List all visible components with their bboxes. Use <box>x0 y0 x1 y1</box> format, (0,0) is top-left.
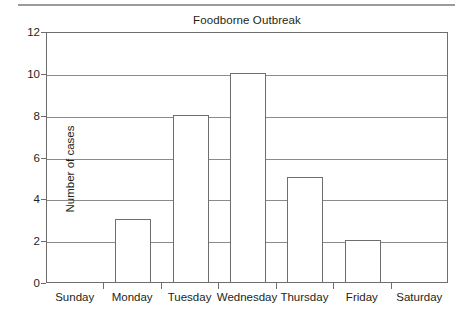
x-axis-tick-mark <box>333 283 334 289</box>
x-axis-tick-mark <box>161 283 162 289</box>
x-axis-tick-label: Saturday <box>396 291 442 303</box>
y-axis-tick-label: 6 <box>14 152 40 164</box>
plot-area: Number of cases <box>46 32 448 283</box>
y-axis-tick-label: 12 <box>14 26 40 38</box>
x-axis-tick-mark <box>103 283 104 289</box>
x-axis-tick-mark <box>218 283 219 289</box>
top-horizontal-rule <box>18 4 455 6</box>
y-axis-label: Number of cases <box>64 99 76 239</box>
y-axis-tick-label: 0 <box>14 277 40 289</box>
bar <box>173 115 209 282</box>
chart-title: Foodborne Outbreak <box>46 14 448 26</box>
bar <box>115 219 151 282</box>
x-axis-tick-label: Wednesday <box>217 291 278 303</box>
y-axis-tick-label: 10 <box>14 68 40 80</box>
x-axis-tick-label: Friday <box>346 291 378 303</box>
bar <box>230 73 266 282</box>
y-axis-tick-label: 4 <box>14 193 40 205</box>
x-axis-tick-labels: SundayMondayTuesdayWednesdayThursdayFrid… <box>46 291 448 309</box>
y-axis-tick-label: 2 <box>14 235 40 247</box>
bar <box>345 240 381 282</box>
x-axis-tick-label: Tuesday <box>168 291 212 303</box>
y-axis-tick-label: 8 <box>14 110 40 122</box>
x-axis-tick-mark <box>391 283 392 289</box>
chart-figure: Foodborne Outbreak 024681012 Number of c… <box>0 0 470 320</box>
x-axis-tick-label: Sunday <box>55 291 94 303</box>
y-axis-tick-labels: 024681012 <box>14 32 40 283</box>
x-axis-tick-mark <box>276 283 277 289</box>
x-axis-tick-label: Monday <box>112 291 153 303</box>
x-axis-tick-label: Thursday <box>280 291 328 303</box>
x-axis-tick-marks <box>46 283 448 289</box>
bar <box>287 177 323 282</box>
